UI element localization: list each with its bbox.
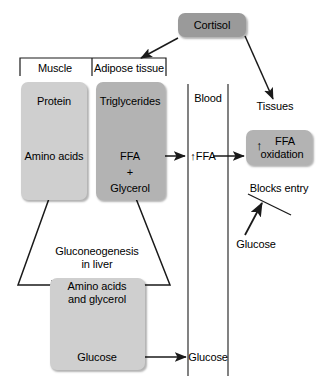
blocks-entry-slash — [248, 194, 291, 215]
arrow-glucose-uptake — [245, 203, 262, 235]
muscle-header-label: Muscle — [38, 62, 72, 75]
arrow-cortisol-to-tissues — [245, 36, 273, 99]
liver-glucose-label: Glucose — [77, 351, 117, 364]
blocks-entry-label: Blocks entry — [250, 182, 309, 195]
arrow-cortisol-to-tissuebracket — [141, 38, 178, 58]
diagram-canvas: Cortisol Muscle Adipose tissue Protein A… — [0, 0, 330, 387]
tissues-label: Tissues — [257, 100, 294, 113]
plus-label: + — [127, 166, 133, 179]
blood-glucose-label: Glucose — [188, 351, 228, 364]
ffa-oxidation-label-line2: oxidation — [260, 148, 303, 161]
cortisol-label: Cortisol — [194, 19, 231, 32]
amino-acids-label: Amino acids — [25, 150, 84, 163]
triglycerides-label: Triglycerides — [100, 95, 161, 108]
protein-label: Protein — [37, 95, 71, 108]
adipose-header-label: Adipose tissue — [94, 62, 164, 75]
blood-label: Blood — [194, 92, 222, 105]
gluconeogenesis-label-line2: in liver — [82, 258, 113, 271]
blood-ffa-label: ↑FFA — [190, 150, 215, 163]
liver-substrates-label-line1: Amino acids — [68, 280, 127, 293]
ffa-oxidation-label-line1: FFA — [275, 135, 295, 148]
glucose-uptake-label: Glucose — [236, 238, 276, 251]
ffa-label: FFA — [120, 150, 140, 163]
gluconeogenesis-label-line1: Gluconeogenesis — [55, 245, 139, 258]
arrow-glycerol-to-liver — [131, 196, 170, 285]
liver-substrates-label-line2: and glycerol — [68, 293, 126, 306]
glycerol-label: Glycerol — [110, 182, 150, 195]
